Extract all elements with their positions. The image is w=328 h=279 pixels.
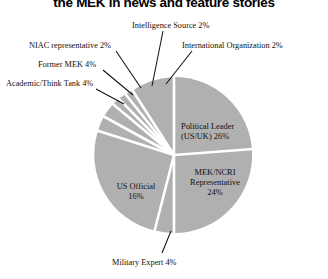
leader-line-military-expert — [162, 231, 171, 253]
slice-label-mek-ncri: MEK/NCRI Representative 24% — [176, 168, 254, 198]
slice-label-academic-think-tank: Academic/Think Tank 4% — [6, 79, 93, 88]
slice-label-mek-ncri-line2: Representative — [176, 178, 254, 188]
slice-label-us-official-line1: US Official — [105, 182, 167, 192]
leader-line-former-mek — [103, 70, 133, 95]
slice-label-us-official: US Official 16% — [105, 182, 167, 202]
slice-label-political-leader: Political Leader (US/UK) 26% — [181, 122, 234, 142]
slice-label-military-expert: Military Expert 4% — [112, 258, 177, 267]
slice-label-former-mek: Former MEK 4% — [38, 60, 96, 69]
slice-label-intelligence-source: Intelligence Source 2% — [132, 21, 209, 30]
slice-label-political-leader-line1: Political Leader — [181, 122, 234, 132]
slice-label-international-organization: International Organization 2% — [182, 41, 283, 50]
slice-label-niac-representative: NIAC representative 2% — [29, 41, 111, 50]
chart-canvas: the MEK in news and feature stories — [0, 0, 328, 279]
slice-label-us-official-line2: 16% — [105, 192, 167, 202]
slice-label-mek-ncri-line1: MEK/NCRI — [176, 168, 254, 178]
slice-label-political-leader-line2: (US/UK) 26% — [181, 132, 234, 142]
leader-line-academic-think-tank — [96, 89, 124, 104]
leader-line-intelligence-source — [152, 31, 163, 86]
leader-line-niac-representative — [116, 51, 141, 88]
pie-slice-political-leader — [174, 77, 252, 155]
slice-label-mek-ncri-line3: 24% — [176, 188, 254, 198]
